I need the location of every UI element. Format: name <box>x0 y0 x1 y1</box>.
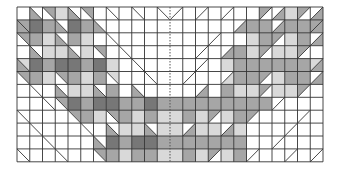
quilt-cell <box>55 20 68 33</box>
quilt-cell <box>183 72 196 85</box>
quilt-cell <box>145 84 158 97</box>
quilt-cell <box>221 110 234 123</box>
quilt-cell <box>259 7 272 20</box>
quilt-cell <box>310 72 323 85</box>
quilt-cell <box>208 136 221 149</box>
quilt-cell <box>81 33 94 46</box>
quilt-cell <box>106 72 119 85</box>
quilt-cell <box>119 59 132 72</box>
quilt-diagram <box>0 0 337 174</box>
quilt-cell <box>68 136 81 149</box>
quilt-cell <box>30 149 43 162</box>
quilt-cell <box>81 110 94 123</box>
quilt-cell <box>310 33 323 46</box>
quilt-cell <box>170 7 183 20</box>
quilt-cell <box>132 123 145 136</box>
quilt-cell <box>272 97 285 110</box>
quilt-cell <box>298 123 311 136</box>
quilt-cell <box>43 7 56 20</box>
quilt-cell <box>221 46 234 59</box>
quilt-cell <box>170 149 183 162</box>
quilt-cell <box>196 149 209 162</box>
quilt-cell <box>272 123 285 136</box>
quilt-cell <box>81 84 94 97</box>
quilt-cell <box>55 123 68 136</box>
quilt-cell <box>17 72 30 85</box>
quilt-cell <box>17 33 30 46</box>
quilt-cell <box>208 110 221 123</box>
quilt-cell <box>68 59 81 72</box>
quilt-cell <box>183 46 196 59</box>
quilt-cell <box>247 123 260 136</box>
quilt-cell <box>119 123 132 136</box>
quilt-cell <box>145 149 158 162</box>
quilt-cell <box>68 72 81 85</box>
quilt-cell <box>272 72 285 85</box>
quilt-cell <box>157 46 170 59</box>
quilt-cell <box>298 59 311 72</box>
quilt-cell <box>157 97 170 110</box>
quilt-cell <box>272 149 285 162</box>
quilt-cell <box>81 46 94 59</box>
quilt-cell <box>30 72 43 85</box>
quilt-cell <box>234 72 247 85</box>
quilt-cell <box>285 149 298 162</box>
quilt-cell <box>43 123 56 136</box>
quilt-cell <box>30 33 43 46</box>
quilt-cell <box>170 123 183 136</box>
quilt-cell <box>55 72 68 85</box>
quilt-cell <box>55 136 68 149</box>
quilt-cell <box>285 33 298 46</box>
quilt-cell <box>183 149 196 162</box>
quilt-cell <box>196 123 209 136</box>
quilt-cell <box>68 84 81 97</box>
quilt-cell <box>30 97 43 110</box>
quilt-cell <box>55 84 68 97</box>
quilt-cell <box>298 110 311 123</box>
quilt-cell <box>132 20 145 33</box>
quilt-cell <box>208 123 221 136</box>
quilt-cell <box>157 123 170 136</box>
quilt-cell <box>272 7 285 20</box>
quilt-cell <box>170 46 183 59</box>
quilt-cell <box>145 7 158 20</box>
quilt-cell <box>196 59 209 72</box>
quilt-cell <box>170 20 183 33</box>
quilt-cell <box>132 84 145 97</box>
quilt-cell <box>247 46 260 59</box>
quilt-cell <box>234 110 247 123</box>
quilt-cell <box>183 59 196 72</box>
quilt-cell <box>106 7 119 20</box>
quilt-cell <box>132 33 145 46</box>
quilt-cell <box>183 7 196 20</box>
quilt-cell <box>157 136 170 149</box>
quilt-cell <box>259 72 272 85</box>
quilt-cell <box>221 72 234 85</box>
quilt-cell <box>43 136 56 149</box>
quilt-cell <box>298 20 311 33</box>
quilt-cell <box>183 123 196 136</box>
quilt-cell <box>183 136 196 149</box>
quilt-cell <box>81 59 94 72</box>
quilt-cell <box>196 136 209 149</box>
quilt-cell <box>221 136 234 149</box>
quilt-cell <box>196 110 209 123</box>
quilt-cell <box>247 59 260 72</box>
quilt-cell <box>272 20 285 33</box>
quilt-cell <box>234 123 247 136</box>
quilt-cell <box>68 97 81 110</box>
quilt-cell <box>132 7 145 20</box>
quilt-cell <box>157 110 170 123</box>
quilt-cell <box>132 72 145 85</box>
quilt-cell <box>183 20 196 33</box>
quilt-cell <box>145 123 158 136</box>
quilt-cell <box>17 84 30 97</box>
quilt-cell <box>55 110 68 123</box>
quilt-cell <box>272 136 285 149</box>
quilt-cell <box>208 59 221 72</box>
quilt-cell <box>272 33 285 46</box>
quilt-cell <box>81 72 94 85</box>
quilt-cell <box>17 136 30 149</box>
quilt-cell <box>119 7 132 20</box>
quilt-cell <box>221 7 234 20</box>
